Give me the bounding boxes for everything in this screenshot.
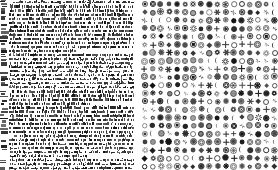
microtext-ascender xyxy=(59,93,60,94)
microtext-ascender xyxy=(121,33,122,35)
symbol-glyph-asterisk xyxy=(222,154,229,161)
microtext-ascender xyxy=(29,101,30,102)
symbol-glyph-flower xyxy=(174,9,180,15)
symbol-glyph-asterisk xyxy=(174,1,180,7)
symbol-glyph-starburst xyxy=(150,90,156,96)
symbol-glyph-pinwheel xyxy=(182,139,188,145)
symbol-glyph-plus-cross xyxy=(150,99,156,105)
microtext-ascender xyxy=(40,21,41,23)
microtext-ascender xyxy=(63,101,64,102)
symbol-glyph-filled-disc xyxy=(174,66,180,72)
symbol-glyph-square-in-ring xyxy=(142,98,148,104)
microtext-ascender xyxy=(132,57,133,58)
microtext-ascender xyxy=(84,78,85,79)
microtext-ascender xyxy=(54,89,55,90)
symbol-glyph-spoked-wheel xyxy=(174,33,181,40)
microtext-ascender xyxy=(96,69,97,71)
symbol-glyph-spoked-wheel xyxy=(158,41,164,47)
symbol-glyph-filled-disc xyxy=(198,26,204,32)
microtext-ascender xyxy=(129,37,130,38)
symbol-glyph-spoked-wheel xyxy=(166,123,172,129)
microtext-ascender xyxy=(96,61,97,63)
symbol-glyph-spoked-wheel xyxy=(223,147,229,153)
symbol-glyph-hatched-disc xyxy=(247,114,254,121)
microtext-ascender xyxy=(59,167,60,169)
symbol-glyph-diamond xyxy=(149,82,156,89)
microtext-ascender xyxy=(82,102,83,104)
symbol-glyph-square-in-ring xyxy=(174,163,181,170)
microtext-ascender xyxy=(65,98,66,100)
microtext-glyph xyxy=(69,167,70,169)
symbol-glyph-hatched-disc xyxy=(264,131,270,137)
microtext-ascender xyxy=(117,1,118,3)
microtext-ascender xyxy=(53,154,54,156)
symbol-glyph-square-in-ring xyxy=(264,156,269,161)
microtext-ascender xyxy=(63,8,64,9)
symbol-glyph-diamond xyxy=(264,83,269,88)
microtext-ascender xyxy=(47,12,48,13)
microtext-ascender xyxy=(75,25,76,27)
symbol-glyph-hatched-disc xyxy=(182,107,188,113)
symbol-glyph-hatched-disc xyxy=(206,50,213,57)
microtext-ascender xyxy=(121,110,122,112)
microtext-ascender xyxy=(16,139,17,141)
margin-tick xyxy=(1,62,7,65)
symbol-glyph-plus-cross xyxy=(247,82,254,89)
symbol-glyph-dotted-ring xyxy=(222,58,229,65)
symbol-glyph-plus-cross xyxy=(214,66,221,73)
microtext-ascender xyxy=(12,163,13,165)
symbol-glyph-double-ring xyxy=(174,58,181,65)
microtext-glyph xyxy=(121,167,123,169)
symbol-glyph-diamond xyxy=(190,164,196,170)
symbol-glyph-flower xyxy=(239,131,245,137)
symbol-glyph-spoked-wheel xyxy=(239,9,245,15)
microtext-glyph xyxy=(94,167,95,169)
symbol-glyph-pinwheel xyxy=(198,65,205,72)
microtext-ascender xyxy=(29,41,30,43)
symbol-glyph-gear xyxy=(158,122,165,129)
microtext-ascender xyxy=(13,13,14,15)
symbol-glyph-flower xyxy=(271,147,278,154)
symbol-glyph-square-in-ring xyxy=(142,90,149,97)
symbol-glyph-ring xyxy=(231,42,237,48)
symbol-glyph-ring xyxy=(272,83,277,88)
symbol-glyph-dotted-ring xyxy=(263,50,270,57)
microtext-ascender xyxy=(78,138,79,140)
symbol-glyph-square-in-ring xyxy=(246,106,253,113)
microtext-descender xyxy=(103,169,104,170)
microtext-ascender xyxy=(88,0,89,1)
microtext-ascender xyxy=(38,8,39,10)
symbol-glyph-filled-disc xyxy=(199,10,204,15)
microtext-ascender xyxy=(68,45,69,47)
microtext-ascender xyxy=(119,105,120,107)
symbol-glyph-gear xyxy=(167,75,172,80)
symbol-glyph-ring xyxy=(214,155,221,162)
symbol-glyph-crescent xyxy=(222,106,229,113)
microtext-ascender xyxy=(75,118,76,120)
symbol-glyph-ring xyxy=(256,34,261,39)
symbol-glyph-asterisk xyxy=(206,1,213,8)
symbol-glyph-gear xyxy=(150,155,156,161)
symbol-glyph-plus-cross xyxy=(198,98,204,104)
margin-tick xyxy=(0,167,5,170)
symbol-glyph-gear xyxy=(182,115,187,120)
microtext-ascender xyxy=(94,158,95,159)
symbol-glyph-square-in-ring xyxy=(174,25,180,31)
microtext-ascender xyxy=(87,130,88,132)
symbol-glyph-plus-cross xyxy=(238,65,245,72)
symbol-glyph-pinwheel xyxy=(263,138,269,144)
microtext-ascender xyxy=(62,138,63,139)
symbol-glyph-hatched-disc xyxy=(149,49,156,56)
symbol-glyph-starburst xyxy=(165,66,172,73)
margin-tick xyxy=(1,8,5,11)
symbol-glyph-crescent xyxy=(207,58,213,64)
microtext-ascender xyxy=(36,21,37,23)
symbol-glyph-pinwheel xyxy=(199,50,205,56)
symbol-glyph-spoked-wheel xyxy=(157,8,164,15)
symbol-glyph-flower xyxy=(174,50,180,56)
symbol-glyph-crescent xyxy=(271,1,278,8)
symbol-glyph-filled-disc xyxy=(255,107,261,113)
symbol-glyph-flower xyxy=(272,58,278,64)
microtext-ascender xyxy=(10,163,11,164)
microtext-ascender xyxy=(36,5,37,7)
